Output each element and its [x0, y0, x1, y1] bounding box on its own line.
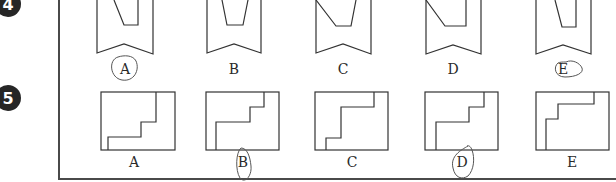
- q5-option-a-label[interactable]: A: [124, 154, 144, 170]
- answer-figures: [0, 0, 616, 182]
- q5-option-e-label[interactable]: E: [562, 154, 582, 170]
- q5-option-c-figure[interactable]: [315, 92, 388, 150]
- q4-option-d-label[interactable]: D: [443, 61, 463, 77]
- q5-option-d-figure[interactable]: [425, 92, 498, 150]
- q4-option-b-label[interactable]: B: [224, 61, 244, 77]
- q5-option-b-figure[interactable]: [206, 92, 279, 150]
- q4-option-a-label[interactable]: A: [115, 61, 135, 77]
- q5-option-d-label[interactable]: D: [452, 154, 472, 170]
- q4-option-e-figure[interactable]: [536, 0, 591, 54]
- q5-option-e-figure[interactable]: [536, 92, 609, 150]
- q4-option-b-figure[interactable]: [207, 0, 261, 53]
- q5-option-c-label[interactable]: C: [342, 154, 362, 170]
- q4-option-d-figure[interactable]: [426, 0, 481, 54]
- q4-option-c-figure[interactable]: [316, 0, 371, 54]
- q4-option-c-label[interactable]: C: [333, 61, 353, 77]
- q5-option-b-label[interactable]: B: [233, 154, 253, 170]
- q4-option-a-figure[interactable]: [97, 0, 153, 54]
- q4-option-e-label[interactable]: E: [553, 61, 573, 77]
- q5-option-a-figure[interactable]: [101, 92, 175, 150]
